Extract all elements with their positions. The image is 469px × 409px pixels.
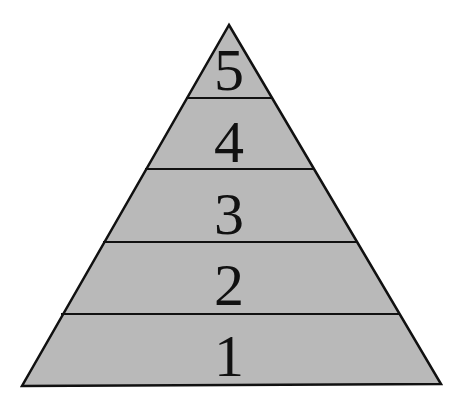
tier-label-1: 1 <box>214 323 244 389</box>
tier-label-4: 4 <box>214 109 244 175</box>
tier-label-5: 5 <box>214 37 244 103</box>
pyramid-diagram: 5 4 3 2 1 <box>0 0 469 409</box>
tier-label-3: 3 <box>214 181 244 247</box>
tier-label-2: 2 <box>214 252 244 318</box>
